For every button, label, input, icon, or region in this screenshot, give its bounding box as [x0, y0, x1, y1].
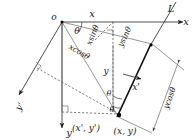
x-segment-label: x [89, 8, 95, 19]
x-prime-arrow-group [123, 74, 141, 79]
xsin-label: xsinθ [85, 23, 101, 46]
original-point-label: (x, y) [114, 126, 137, 136]
y-prime-axis-group [19, 22, 62, 95]
x-prime-label: x' [132, 82, 140, 92]
geometry-diagram-figure: o x x y y' L θ θ θ xcosθ xsinθ ysinθ yco… [0, 0, 194, 140]
right-angle-mark-bottom [62, 106, 68, 112]
ysin-label: ysinθ [116, 25, 134, 49]
rotated-point-label: (x', y') [72, 123, 100, 133]
origin-dot [61, 21, 64, 24]
ycos-label: ycosθ [161, 86, 178, 112]
theta-label-mid: θ [107, 89, 112, 98]
x-prime-direction-arrow [123, 74, 141, 79]
theta-label-origin: θ [74, 26, 80, 36]
y-prime-axis-line [19, 22, 62, 95]
intersection-dot [149, 43, 152, 46]
theta-arc-mid [113, 96, 122, 99]
x-axis-label: x [183, 16, 189, 27]
origin-label: o [51, 12, 57, 22]
theta-label-point: θ [110, 105, 115, 114]
y-prime-axis-label: y' [13, 101, 26, 114]
right-angle-mark-yprime [36, 62, 41, 71]
diagram-canvas: o x x y y' L θ θ θ xcosθ xsinθ ysinθ yco… [0, 0, 194, 140]
data-point-dot [117, 113, 121, 117]
ycos-top-connector [152, 44, 184, 70]
line-L-label: L [167, 3, 175, 14]
y-segment-label: y [102, 66, 109, 76]
